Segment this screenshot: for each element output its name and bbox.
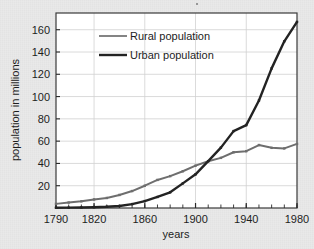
population-line-chart: 179018201860190019401980 204060801001201… — [0, 0, 314, 249]
y-axis-title: population in millions — [9, 58, 21, 161]
x-tick-label: 1980 — [285, 213, 309, 225]
y-tick-label: 120 — [32, 68, 50, 80]
x-axis-tick-labels: 179018201860190019401980 — [44, 213, 309, 225]
y-tick-label: 20 — [38, 180, 50, 192]
x-tick-label: 1940 — [234, 213, 258, 225]
x-tick-label: 1790 — [44, 213, 68, 225]
x-tick-label: 1860 — [133, 213, 157, 225]
x-axis-title: years — [163, 228, 190, 240]
y-axis-tick-labels: 20406080100120140160 — [32, 24, 50, 192]
x-tick-label: 1820 — [82, 213, 106, 225]
y-tick-label: 100 — [32, 91, 50, 103]
plot-area-background — [56, 13, 297, 208]
legend-label: Urban population — [130, 49, 214, 61]
chart-figure: 179018201860190019401980 204060801001201… — [0, 0, 314, 249]
y-tick-label: 40 — [38, 157, 50, 169]
legend-label: Rural population — [130, 30, 210, 42]
y-tick-label: 80 — [38, 113, 50, 125]
x-tick-label: 1900 — [183, 213, 207, 225]
scan-artifact-speck — [196, 3, 198, 5]
y-tick-label: 160 — [32, 24, 50, 36]
y-tick-label: 140 — [32, 46, 50, 58]
y-tick-label: 60 — [38, 135, 50, 147]
